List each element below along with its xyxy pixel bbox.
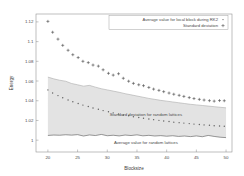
x-tick-label: 20 xyxy=(45,155,50,160)
y-axis-label: Energy xyxy=(9,75,14,90)
chart-legend: Average value for local block during RK2… xyxy=(109,16,228,30)
data-point-marker xyxy=(102,110,103,111)
data-point-marker xyxy=(148,118,149,119)
data-point-marker xyxy=(88,106,89,107)
data-point-marker xyxy=(203,124,204,125)
x-tick-label: 30 xyxy=(105,155,110,160)
data-point-marker xyxy=(92,107,93,108)
y-tick-label: 1.02 xyxy=(25,118,34,123)
x-tick-label: 35 xyxy=(135,155,140,160)
data-point-marker xyxy=(52,92,53,93)
data-point-marker xyxy=(183,122,184,123)
data-point-marker xyxy=(224,126,225,127)
y-tick-label: 1.04 xyxy=(25,98,34,103)
legend-item-local-block-label: Average value for local block during RK2 xyxy=(142,17,218,22)
data-point-marker xyxy=(98,109,99,110)
y-tick-label: 1.08 xyxy=(25,59,34,64)
y-tick-label: 1.12 xyxy=(25,19,34,24)
chart-figure: 20253035404550 11.021.041.061.081.11.12 … xyxy=(0,0,244,176)
legend-item-std-dev-label: Standard deviation xyxy=(183,23,219,28)
x-tick-label: 50 xyxy=(224,155,229,160)
x-tick-label: 40 xyxy=(164,155,169,160)
data-point-marker xyxy=(67,99,68,100)
x-axis-label: Blocksize xyxy=(124,166,144,171)
data-point-marker xyxy=(47,89,48,90)
data-point-marker xyxy=(178,122,179,123)
chart-annotation-label: Standard deviation for random lattices xyxy=(110,112,182,117)
data-point-marker xyxy=(57,95,58,96)
data-point-marker xyxy=(193,123,194,124)
data-point-marker xyxy=(153,119,154,120)
data-point-marker xyxy=(209,125,210,126)
y-tick-label: 1.1 xyxy=(27,39,34,44)
plot-area: 20253035404550 11.021.041.061.081.11.12 xyxy=(25,14,232,160)
chart-annotation-label: Average value for random lattices xyxy=(114,140,178,145)
data-point-marker xyxy=(189,123,190,124)
data-point-marker xyxy=(163,120,164,121)
data-point-marker xyxy=(62,97,63,98)
data-point-marker xyxy=(168,121,169,122)
y-tick-label: 1 xyxy=(31,138,34,143)
data-point-marker xyxy=(143,118,144,119)
legend-marker-dot-icon xyxy=(222,19,223,20)
x-tick-label: 25 xyxy=(75,155,80,160)
data-point-marker xyxy=(219,125,220,126)
x-tick-label: 45 xyxy=(194,155,199,160)
y-tick-label: 1.06 xyxy=(25,79,34,84)
data-point-marker xyxy=(173,121,174,122)
data-point-marker xyxy=(82,104,83,105)
chart-svg: 20253035404550 11.021.041.061.081.11.12 … xyxy=(0,0,244,176)
data-point-marker xyxy=(158,120,159,121)
data-point-marker xyxy=(72,101,73,102)
data-point-marker xyxy=(77,103,78,104)
data-point-marker xyxy=(199,124,200,125)
data-point-marker xyxy=(213,125,214,126)
